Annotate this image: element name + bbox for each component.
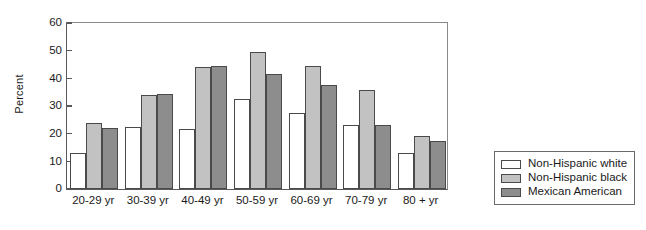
y-tick-0: 0 [56,183,67,195]
bar [321,85,337,189]
bar [375,125,391,189]
bar-chart-figure: Percent 0102030405060 20-29 yr30-39 yr40… [0,0,646,230]
y-tick-30: 30 [49,100,67,112]
x-tick-label: 60-69 yr [290,194,332,206]
y-tick-60: 60 [49,17,67,29]
bar [398,153,414,189]
y-tick-label: 40 [49,73,67,85]
y-tick-label: 50 [49,45,67,57]
bar-group [231,23,286,189]
legend-item-label: Non-Hispanic black [528,172,627,184]
y-tick-10: 10 [49,155,67,167]
bar [250,52,266,189]
bar-series-container [67,23,447,189]
x-tick-label: 30-39 yr [127,194,169,206]
bar [266,74,282,189]
bar [343,125,359,189]
legend-item-label: Non-Hispanic white [528,158,627,170]
bar [195,67,211,189]
legend-swatch-dark-gray [501,188,521,197]
x-tick-label: 80 + yr [403,194,438,206]
bar-group [67,23,122,189]
bar [430,141,446,189]
bar-group [394,23,449,189]
bar [102,128,118,189]
y-tick-label: 0 [56,183,67,195]
x-tick-label: 40-49 yr [181,194,223,206]
legend-item-label: Mexican American [528,186,622,198]
y-axis-title: Percent [13,49,25,139]
legend-item: Non-Hispanic white [501,157,627,171]
y-tick-label: 20 [49,128,67,140]
bar-group [285,23,340,189]
y-tick-label: 60 [49,17,67,29]
bar-group [340,23,395,189]
legend-item: Non-Hispanic black [501,171,627,185]
chart-legend: Non-Hispanic whiteNon-Hispanic blackMexi… [494,151,635,205]
bar [414,136,430,189]
bar [234,99,250,189]
bar [157,94,173,189]
x-tick-label: 50-59 yr [236,194,278,206]
bar [70,153,86,189]
bar [125,127,141,189]
bar [179,129,195,189]
y-tick-20: 20 [49,128,67,140]
legend-swatch-white [501,160,521,169]
bar [289,113,305,189]
bar [141,95,157,189]
x-tick-label: 20-29 yr [72,194,114,206]
y-tick-label: 10 [49,156,67,168]
plot-area: 0102030405060 [66,22,448,190]
bar [86,123,102,189]
bar [359,90,375,189]
bar-group [122,23,177,189]
y-tick-label: 30 [49,100,67,112]
y-tick-40: 40 [49,72,67,84]
legend-swatch-light-gray [501,174,521,183]
y-tick-50: 50 [49,45,67,57]
bar-group [176,23,231,189]
bar [305,66,321,189]
x-tick-label: 70-79 yr [345,194,387,206]
bar [211,66,227,189]
legend-item: Mexican American [501,185,627,199]
